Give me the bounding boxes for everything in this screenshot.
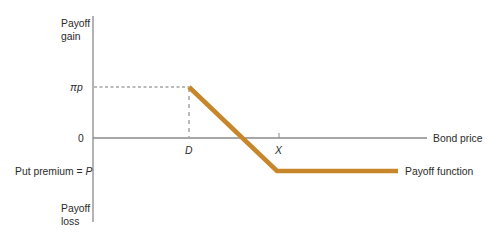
bond-price-label: Bond price bbox=[433, 132, 482, 145]
x-label: X bbox=[275, 144, 282, 157]
zero-label: 0 bbox=[78, 132, 84, 145]
put-premium-label: Put premium = P bbox=[15, 165, 92, 178]
payoff-gain-label: Payoff gain bbox=[61, 17, 90, 43]
payoff-loss-label: Payoff loss bbox=[61, 202, 90, 228]
pi-p-label: πp bbox=[70, 81, 83, 94]
payoff-function-line bbox=[189, 87, 398, 171]
d-label: D bbox=[185, 144, 192, 157]
payoff-function-label: Payoff function bbox=[405, 165, 473, 178]
